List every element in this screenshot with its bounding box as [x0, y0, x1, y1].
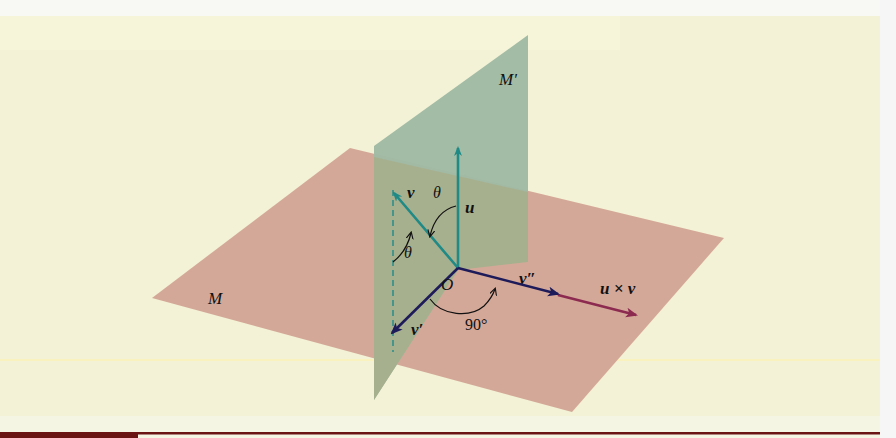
label-right-angle: 90°	[465, 316, 487, 333]
label-vector-v-prime: v′	[411, 320, 423, 339]
label-theta-side: θ	[404, 244, 412, 261]
label-vector-u: u	[465, 198, 474, 217]
label-vector-v: v	[407, 183, 415, 202]
label-plane-M-prime: M′	[498, 70, 517, 89]
label-vector-u-cross-v: u × v	[600, 279, 636, 298]
label-vector-v-double-prime: v″	[519, 269, 536, 288]
label-origin: O	[441, 275, 453, 294]
cross-product-diagram: M′ M u v θ θ O v″ u × v 90° v′	[0, 0, 896, 438]
label-plane-M: M	[207, 289, 223, 308]
right-edge-strip	[880, 0, 896, 438]
footer-tab	[0, 432, 138, 438]
label-theta-top: θ	[433, 184, 441, 201]
figure-page: M′ M u v θ θ O v″ u × v 90° v′	[0, 0, 896, 438]
top-strip	[0, 0, 896, 16]
